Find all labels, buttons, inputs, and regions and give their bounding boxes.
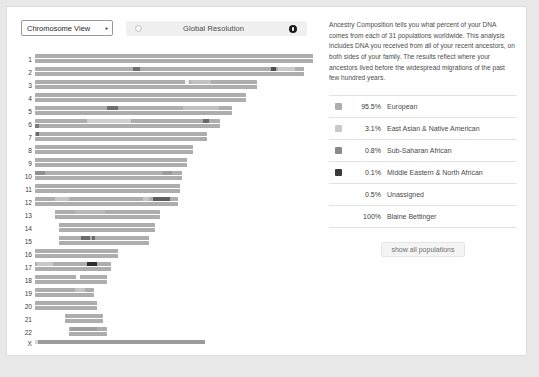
global-resolution-slider[interactable]: Global Resolution [126,21,307,36]
chromosome-19-haplotype-1[interactable] [35,288,94,292]
chromosome-row-13[interactable]: 13 [17,210,317,223]
chromosome-6-haplotype-1[interactable] [35,119,220,123]
chromosome-row-8[interactable]: 8 [17,145,317,158]
chromosome-13-haplotype-2[interactable] [55,215,160,219]
chromosome-view-select-value: Chromosome View [27,24,104,33]
population-color-swatch [335,169,342,176]
chromosome-label-20: 20 [17,304,32,311]
chromosome-row-10[interactable]: 10 [17,171,317,184]
chromosome-21-haplotype-1[interactable] [65,314,103,318]
ancestry-segment [35,171,182,175]
ancestry-segment [185,80,189,84]
population-color-swatch [335,125,342,132]
population-name: European [387,103,417,110]
chromosome-6-haplotype-2[interactable] [35,124,220,128]
chromosome-row-2[interactable]: 2 [17,67,317,80]
chromosome-20-haplotype-2[interactable] [35,306,97,310]
chromosome-10-haplotype-1[interactable] [35,171,182,175]
chromosome-9-haplotype-2[interactable] [35,163,187,167]
chromosome-row-9[interactable]: 9 [17,158,317,171]
chromosome-row-7[interactable]: 7 [17,132,317,145]
population-name: East Asian & Native American [387,125,480,132]
ancestry-segment [35,132,207,136]
chromosome-row-6[interactable]: 6 [17,119,317,132]
legend-row[interactable]: 95.5%European [329,96,517,118]
chromosome-row-17[interactable]: 17 [17,262,317,275]
chromosome-2-haplotype-2[interactable] [35,72,304,76]
ancestry-segment [81,236,90,240]
chromosome-label-9: 9 [17,161,32,168]
chromosome-label-21: 21 [17,317,32,324]
chromosome-21-haplotype-2[interactable] [65,319,103,323]
ancestry-segment [271,67,276,71]
chromosome-7-haplotype-1[interactable] [35,132,207,136]
population-name: Middle Eastern & North African [387,169,483,176]
resolution-max-knob[interactable] [289,25,297,33]
chromosome-17-haplotype-2[interactable] [35,267,111,271]
show-all-populations-button[interactable]: show all populations [381,242,464,257]
chromosome-5-haplotype-2[interactable] [35,111,232,115]
chromosome-12-haplotype-2[interactable] [35,202,178,206]
legend-row[interactable]: 100%Blaine Bettinger [329,206,517,228]
legend-row[interactable]: 0.5%Unassigned [329,184,517,206]
chromosome-row-20[interactable]: 20 [17,301,317,314]
chromosome-row-21[interactable]: 21 [17,314,317,327]
chromosome-1-haplotype-1[interactable] [35,54,313,58]
chromosome-18-haplotype-2[interactable] [35,280,107,284]
chromosome-row-5[interactable]: 5 [17,106,317,119]
chromosome-4-haplotype-1[interactable] [35,93,246,97]
chromosome-view-select[interactable]: Chromosome View ▼ [21,20,113,36]
chromosome-16-haplotype-2[interactable] [35,254,118,258]
chromosome-20-haplotype-1[interactable] [35,301,97,305]
chromosome-row-18[interactable]: 18 [17,275,317,288]
legend-swatch-cell [329,147,347,154]
chromosome-5-haplotype-1[interactable] [35,106,232,110]
chromosome-4-haplotype-2[interactable] [35,98,246,102]
chromosome-label-13: 13 [17,213,32,220]
chromosome-row-15[interactable]: 15 [17,236,317,249]
chromosome-row-1[interactable]: 1 [17,54,317,67]
ancestry-segment [35,267,111,271]
chromosome-18-haplotype-1[interactable] [35,275,107,279]
chromosome-row-3[interactable]: 3 [17,80,317,93]
ancestry-segment [35,249,118,253]
chromosome-2-haplotype-1[interactable] [35,67,304,71]
chromosome-row-4[interactable]: 4 [17,93,317,106]
chromosome-row-11[interactable]: 11 [17,184,317,197]
chromosome-11-haplotype-2[interactable] [35,189,180,193]
population-color-swatch [335,147,342,154]
legend-row[interactable]: 0.1%Middle Eastern & North African [329,162,517,184]
chromosome-7-haplotype-2[interactable] [35,137,207,141]
legend-row[interactable]: 3.1%East Asian & Native American [329,118,517,140]
chromosome-row-X[interactable]: X [17,340,317,353]
chromosome-14-haplotype-1[interactable] [59,223,155,227]
chromosome-16-haplotype-1[interactable] [35,249,118,253]
chromosome-10-haplotype-2[interactable] [35,176,182,180]
population-name: Blaine Bettinger [387,213,436,220]
chromosome-8-haplotype-2[interactable] [35,150,193,154]
chromosome-12-haplotype-1[interactable] [35,197,178,201]
chromosome-19-haplotype-2[interactable] [35,293,94,297]
chromosome-row-12[interactable]: 12 [17,197,317,210]
chromosome-22-haplotype-2[interactable] [69,332,107,336]
chromosome-row-14[interactable]: 14 [17,223,317,236]
chromosome-13-haplotype-1[interactable] [55,210,160,214]
chromosome-17-haplotype-1[interactable] [35,262,111,266]
chromosome-3-haplotype-2[interactable] [35,85,257,89]
chromosome-1-haplotype-2[interactable] [35,59,313,63]
chromosome-9-haplotype-1[interactable] [35,158,187,162]
chromosome-8-haplotype-1[interactable] [35,145,193,149]
legend-row[interactable]: 0.8%Sub-Saharan African [329,140,517,162]
chromosome-X-haplotype-1[interactable] [35,340,205,344]
chromosome-row-16[interactable]: 16 [17,249,317,262]
chromosome-22-haplotype-1[interactable] [69,327,107,331]
chromosome-3-haplotype-1[interactable] [35,80,257,84]
chromosome-row-19[interactable]: 19 [17,288,317,301]
ancestry-description: Ancestry Composition tells you what perc… [329,20,517,84]
population-color-swatch [335,103,342,110]
chromosome-15-haplotype-1[interactable] [59,236,149,240]
chromosome-row-22[interactable]: 22 [17,327,317,340]
chromosome-11-haplotype-1[interactable] [35,184,180,188]
chromosome-14-haplotype-2[interactable] [59,228,155,232]
chromosome-15-haplotype-2[interactable] [59,241,149,245]
